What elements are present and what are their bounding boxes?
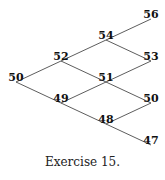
tree-node-label: 50 — [143, 92, 159, 105]
tree-node-label: 53 — [143, 50, 158, 63]
tree-node-label: 48 — [98, 113, 114, 126]
tree-node-label: 52 — [53, 50, 68, 63]
tree-node-label: 47 — [143, 134, 158, 147]
tree-node-label: 51 — [98, 71, 113, 84]
tree-node-label: 56 — [143, 8, 159, 21]
tree-node-label: 49 — [53, 92, 68, 105]
binomial-tree-diagram: 50524954514856535047 — [0, 0, 165, 180]
tree-node-label: 50 — [8, 71, 24, 84]
tree-node-label: 54 — [98, 29, 114, 42]
figure-caption: Exercise 15. — [0, 155, 165, 169]
